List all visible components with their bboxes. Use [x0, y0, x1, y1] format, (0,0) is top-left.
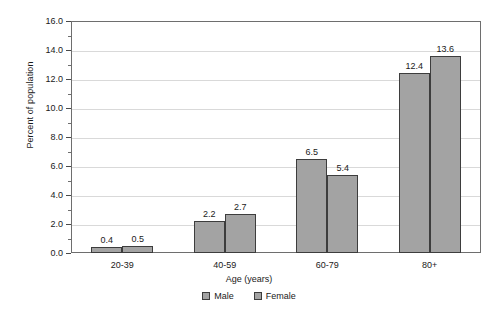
y-axis-label: 12.0 — [23, 74, 63, 84]
x-axis-label-40-59: 40-59 — [185, 260, 265, 270]
y-axis-label: 8.0 — [23, 132, 63, 142]
x-axis-title: Age (years) — [0, 274, 498, 284]
bar-male-80+ — [399, 73, 430, 253]
x-axis-label-20-39: 20-39 — [82, 260, 162, 270]
bar-value-label: 6.5 — [290, 147, 333, 157]
bar-value-label: 13.6 — [424, 44, 467, 54]
bar-female-60-79 — [327, 175, 358, 253]
legend-entry-male[interactable]: Male — [202, 291, 234, 301]
y-axis-label: 6.0 — [23, 161, 63, 171]
bar-female-40-59 — [225, 214, 256, 253]
bar-female-20-39 — [122, 246, 153, 253]
x-axis-label-60-79: 60-79 — [287, 260, 367, 270]
bar-value-label: 0.5 — [116, 234, 159, 244]
bar-male-60-79 — [296, 159, 327, 253]
legend-swatch-icon — [254, 292, 262, 300]
bar-female-80+ — [430, 56, 461, 253]
chart-legend: MaleFemale — [0, 291, 498, 301]
legend-label: Male — [214, 291, 234, 301]
y-axis-label: 4.0 — [23, 190, 63, 200]
bar-value-label: 2.7 — [219, 202, 262, 212]
legend-swatch-icon — [202, 292, 210, 300]
legend-label: Female — [266, 291, 296, 301]
x-axis-label-80+: 80+ — [390, 260, 470, 270]
y-axis-label: 2.0 — [23, 219, 63, 229]
bar-male-40-59 — [194, 221, 225, 253]
y-axis-tick — [66, 253, 71, 254]
y-axis-label: 0.0 — [23, 248, 63, 258]
y-axis-label: 16.0 — [23, 16, 63, 26]
legend-entry-female[interactable]: Female — [254, 291, 296, 301]
bar-chart-figure: Percent of population 0.02.04.06.08.010.… — [0, 0, 498, 314]
y-axis-label: 14.0 — [23, 45, 63, 55]
bar-value-label: 5.4 — [321, 163, 364, 173]
y-axis-label: 10.0 — [23, 103, 63, 113]
bar-series-layer: 0.40.52.22.76.55.412.413.6 — [71, 21, 481, 253]
bar-male-20-39 — [91, 247, 122, 253]
